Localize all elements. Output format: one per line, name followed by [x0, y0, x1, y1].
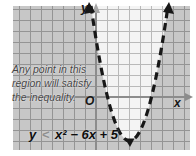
inequality-label: y < x² − 6x + 5 — [29, 127, 118, 142]
inequality-graph-figure: y x O Any point in this region will sati… — [0, 0, 196, 156]
annotation-line: region will satisfy — [12, 76, 91, 90]
inequality-relation: < — [40, 127, 52, 142]
inequality-rhs: x² − 6x + 5 — [55, 127, 118, 142]
y-axis-label: y — [81, 1, 88, 14]
annotation-line: Any point in this — [12, 62, 91, 76]
x-axis-label: x — [174, 97, 181, 109]
annotation-text: Any point in this region will satisfy th… — [12, 62, 91, 104]
annotation-line: the inequality. — [12, 90, 91, 104]
inequality-lhs: y — [29, 127, 36, 142]
